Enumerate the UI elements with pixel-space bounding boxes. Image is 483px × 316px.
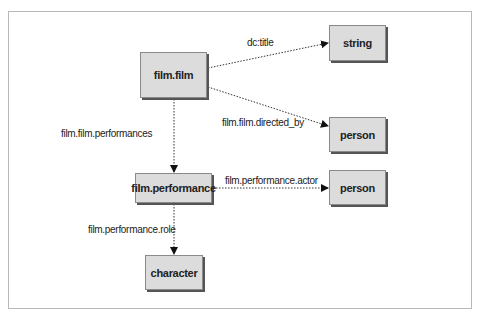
node-label: film.performance	[131, 182, 215, 194]
node-film-film[interactable]: film.film	[140, 52, 207, 98]
node-label: person	[340, 129, 375, 141]
edge-label-dc-title: dc:title	[247, 37, 274, 48]
node-film-performance[interactable]: film.performance	[135, 173, 212, 203]
edge-label-actor: film.performance.actor	[225, 175, 318, 186]
node-string[interactable]: string	[329, 25, 386, 61]
node-label: character	[151, 267, 198, 279]
edge-label-directed-by: film.film.directed_by	[222, 117, 304, 128]
node-character[interactable]: character	[145, 255, 203, 290]
edge-label-role: film.performance.role	[88, 224, 176, 235]
edge-label-performances: film.film.performances	[61, 128, 152, 139]
edges-layer	[0, 0, 483, 316]
node-person-director[interactable]: person	[329, 117, 386, 152]
node-person-actor[interactable]: person	[329, 170, 386, 205]
node-label: string	[343, 37, 372, 49]
node-label: film.film	[154, 69, 193, 81]
node-label: person	[340, 182, 375, 194]
